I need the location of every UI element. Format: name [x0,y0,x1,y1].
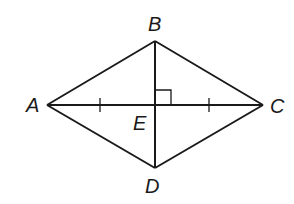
rhombus-diagram: A B C D E [0,0,294,204]
segment-ab [47,41,155,105]
label-a: A [25,94,39,116]
label-e: E [133,112,147,134]
label-b: B [148,13,161,35]
label-d: D [145,175,159,197]
right-angle-mark [155,90,171,105]
segment-cd [155,105,263,168]
label-c: C [270,95,285,117]
